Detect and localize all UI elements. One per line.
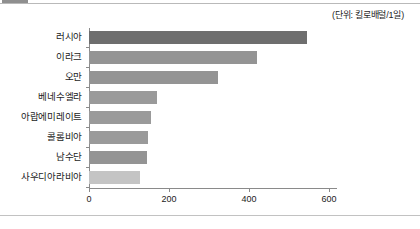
figure-bottom-rule [0, 215, 420, 216]
bar-row: 콜롬비아 [89, 128, 337, 148]
bar [89, 91, 157, 104]
bar-row: 남수단 [89, 148, 337, 168]
bar-row: 러시아 [89, 28, 337, 48]
x-tick-mark [169, 188, 170, 192]
x-tick-label: 400 [241, 194, 256, 204]
bar-row: 아랍에미레이트 [89, 108, 337, 128]
bar [89, 51, 257, 64]
chart-figure: (단위: 킬로배럴/1일) 러시아이라크오만베네수엘라아랍에미레이트콜롬비아남수… [0, 0, 420, 229]
bar [89, 71, 218, 84]
x-axis-ticks: 0200400600 [89, 188, 337, 189]
category-label: 오만 [65, 69, 82, 83]
bar [89, 171, 140, 184]
bar [89, 131, 148, 144]
bar [89, 31, 307, 44]
category-label: 러시아 [56, 29, 82, 43]
bar-row: 사우디아라비아 [89, 168, 337, 188]
bar [89, 111, 151, 124]
category-label: 베네수엘라 [38, 89, 82, 103]
category-label: 사우디아라비아 [21, 169, 82, 183]
bar [89, 151, 147, 164]
category-label: 콜롬비아 [47, 129, 82, 143]
bar-row: 베네수엘라 [89, 88, 337, 108]
x-tick-mark [89, 188, 90, 192]
category-label: 남수단 [56, 149, 82, 163]
category-label: 아랍에미레이트 [21, 109, 82, 123]
x-tick-label: 0 [86, 194, 91, 204]
bar-row: 오만 [89, 68, 337, 88]
bar-rows: 러시아이라크오만베네수엘라아랍에미레이트콜롬비아남수단사우디아라비아 [89, 28, 337, 188]
category-label: 이라크 [56, 49, 82, 63]
x-tick-label: 600 [321, 194, 336, 204]
unit-note: (단위: 킬로배럴/1일) [332, 8, 404, 21]
x-tick-label: 200 [161, 194, 176, 204]
bar-row: 이라크 [89, 48, 337, 68]
plot-area: 러시아이라크오만베네수엘라아랍에미레이트콜롬비아남수단사우디아라비아 02004… [89, 28, 337, 189]
figure-top-rule [0, 3, 420, 4]
x-tick-mark [329, 188, 330, 192]
x-tick-mark [249, 188, 250, 192]
